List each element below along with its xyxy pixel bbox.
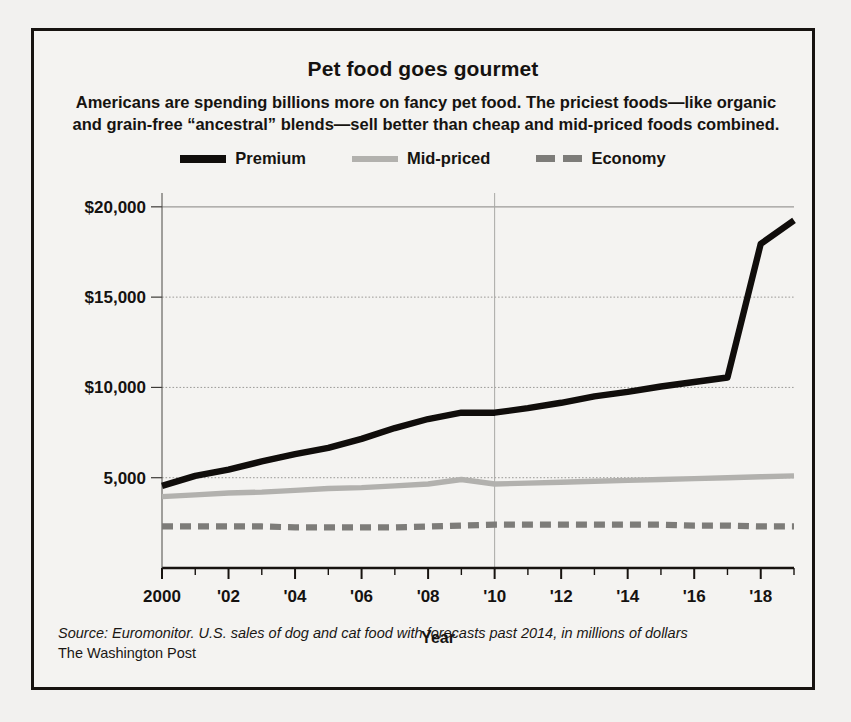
x-axis-tick-label: '08 bbox=[417, 587, 440, 606]
chart-figure: Pet food goes gourmet Americans are spen… bbox=[31, 28, 815, 690]
x-axis-tick-label: '06 bbox=[350, 587, 373, 606]
y-axis-tick-label: $10,000 bbox=[85, 378, 146, 397]
x-axis-tick-label: '16 bbox=[683, 587, 706, 606]
source-note: Source: Euromonitor. U.S. sales of dog a… bbox=[58, 624, 794, 643]
series-line-premium bbox=[162, 220, 794, 485]
chart-footer: Source: Euromonitor. U.S. sales of dog a… bbox=[58, 624, 794, 663]
x-axis bbox=[162, 568, 794, 579]
series-line-mid-priced bbox=[162, 476, 794, 497]
x-axis-tick-label: '04 bbox=[284, 587, 307, 606]
x-axis-tick-label: '14 bbox=[616, 587, 639, 606]
y-axis-tick-label: $20,000 bbox=[85, 198, 146, 217]
y-axis-tick-labels: $20,000$15,000$10,0005,000 bbox=[85, 198, 162, 488]
plot-area: $20,000$15,000$10,0005,000 2000'02'04'06… bbox=[34, 31, 818, 693]
data-series-layer bbox=[162, 220, 794, 527]
x-axis-tick-label: '12 bbox=[550, 587, 573, 606]
y-axis-tick-label: $15,000 bbox=[85, 288, 146, 307]
x-axis-tick-label: '10 bbox=[483, 587, 506, 606]
series-line-economy bbox=[162, 525, 794, 528]
y-axis-tick-label: 5,000 bbox=[103, 469, 146, 488]
x-axis-tick-labels: 2000'02'04'06'08'10'12'14'16'18 bbox=[143, 587, 772, 606]
publisher-name: The Washington Post bbox=[58, 644, 794, 663]
x-axis-tick-label: '18 bbox=[749, 587, 772, 606]
x-axis-tick-label: 2000 bbox=[143, 587, 181, 606]
x-axis-tick-label: '02 bbox=[217, 587, 240, 606]
plot-svg: $20,000$15,000$10,0005,000 2000'02'04'06… bbox=[34, 31, 818, 693]
